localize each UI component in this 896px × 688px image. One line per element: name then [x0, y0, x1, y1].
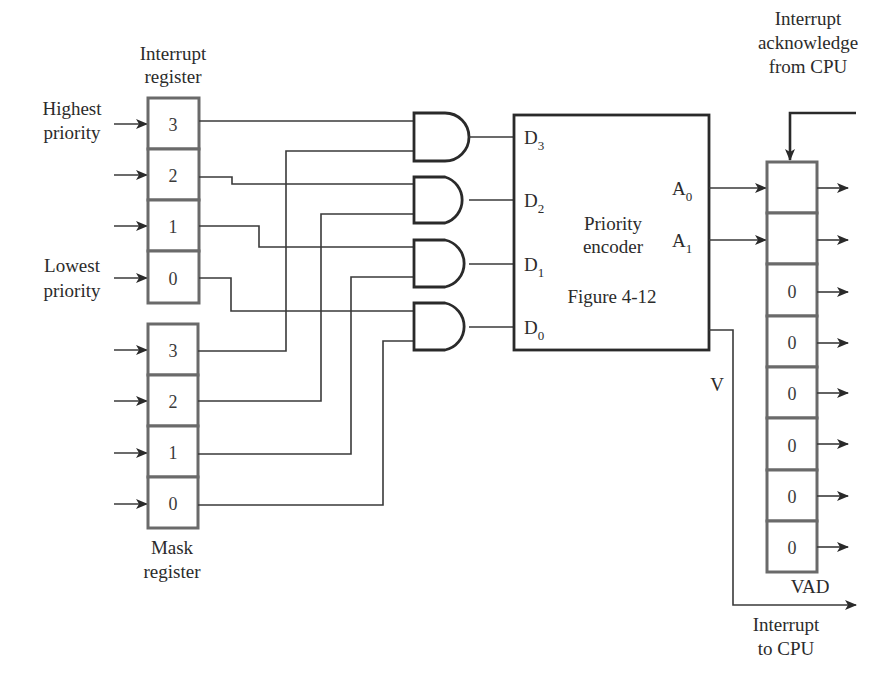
- vad-cell-6: 0: [788, 487, 797, 507]
- vad-label: VAD: [791, 576, 830, 597]
- svg-text:from CPU: from CPU: [769, 56, 848, 77]
- svg-text:Highest: Highest: [42, 98, 102, 119]
- vad-output-arrows: [817, 188, 848, 547]
- svg-text:Interrupt: Interrupt: [775, 8, 842, 29]
- interrupt-to-cpu-label: Interrupt to CPU: [753, 614, 820, 659]
- vad-register: 0 0 0 0 0 0: [767, 162, 817, 572]
- mask-cell-0: 0: [169, 494, 178, 514]
- and-gate-1: [414, 240, 464, 287]
- interrupt-register-label: Interrupt register: [140, 43, 207, 87]
- interrupt-input-arrows: [114, 124, 147, 278]
- interrupt-cell-0: 0: [169, 269, 178, 289]
- svg-text:to CPU: to CPU: [758, 638, 815, 659]
- mask-cell-2: 2: [169, 392, 178, 412]
- svg-text:register: register: [144, 561, 202, 582]
- mask-cell-1: 1: [169, 443, 178, 463]
- svg-text:Mask: Mask: [151, 537, 194, 558]
- svg-text:Interrupt: Interrupt: [140, 43, 207, 64]
- interrupt-cell-1: 1: [169, 217, 178, 237]
- svg-text:register: register: [145, 66, 203, 87]
- highest-priority-label: Highest priority: [42, 98, 102, 143]
- vad-cell-3: 0: [788, 333, 797, 353]
- mask-input-arrows: [114, 350, 147, 504]
- interrupt-to-gate-wires: [199, 121, 414, 311]
- mask-register-label: Mask register: [144, 537, 202, 582]
- encoder-title-line1: Priority: [584, 213, 643, 234]
- svg-text:acknowledge: acknowledge: [758, 32, 858, 53]
- mask-cell-3: 3: [169, 341, 178, 361]
- mask-to-gate-wires: [198, 151, 414, 505]
- svg-text:Interrupt: Interrupt: [753, 614, 820, 635]
- vad-cell-2: 0: [788, 282, 797, 302]
- encoder-to-vad-wires: [709, 188, 766, 240]
- mask-register: 3 2 1 0: [148, 324, 198, 528]
- encoder-title-line2: encoder: [583, 236, 644, 257]
- interrupt-register: 3 2 1 0: [148, 98, 199, 303]
- and-gate-0: [414, 303, 464, 350]
- encoder-figure-ref: Figure 4-12: [567, 286, 656, 307]
- svg-text:priority: priority: [44, 122, 101, 143]
- interrupt-ack-label: Interrupt acknowledge from CPU: [758, 8, 858, 77]
- gate-to-encoder-wires: [469, 137, 514, 327]
- interrupt-cell-2: 2: [169, 166, 178, 186]
- svg-text:priority: priority: [44, 280, 101, 301]
- priority-encoder: D3 D2 D1 D0 A0 A1 Priority encoder Figur…: [514, 115, 709, 350]
- priority-interrupt-hardware-diagram: Interrupt register Highest priority Lowe…: [0, 0, 896, 688]
- interrupt-ack-wire: [790, 113, 856, 160]
- svg-text:Lowest: Lowest: [44, 255, 101, 276]
- vad-cell-4: 0: [788, 384, 797, 404]
- interrupt-cell-3: 3: [169, 115, 178, 135]
- and-gate-3: [414, 113, 469, 161]
- lowest-priority-label: Lowest priority: [44, 255, 101, 301]
- vad-cell-5: 0: [788, 436, 797, 456]
- v-label: V: [710, 374, 724, 395]
- and-gate-2: [414, 177, 462, 223]
- vad-cell-7: 0: [788, 538, 797, 558]
